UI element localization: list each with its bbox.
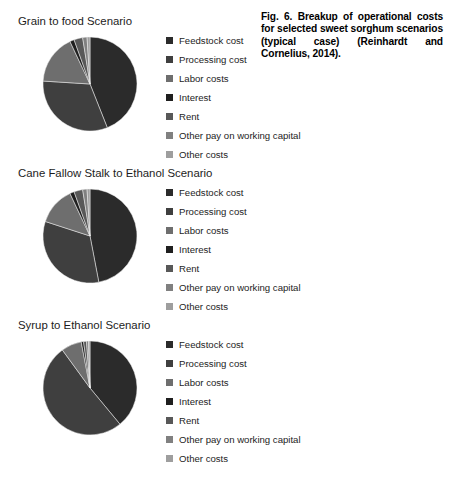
- legend-item[interactable]: Interest: [166, 392, 301, 411]
- figure-root: Fig. 6. Breakup of operational costs for…: [0, 0, 452, 482]
- legend-label: Other costs: [179, 301, 228, 312]
- legend-item[interactable]: Other pay on working capital: [166, 430, 301, 449]
- legend-swatch-icon: [166, 37, 173, 44]
- legend-item[interactable]: Other costs: [166, 449, 301, 468]
- legend-item[interactable]: Other pay on working capital: [166, 278, 301, 297]
- legend-label: Other costs: [179, 149, 228, 160]
- pie-slice[interactable]: [90, 189, 137, 282]
- legend-swatch-icon: [166, 360, 173, 367]
- legend-swatch-icon: [166, 132, 173, 139]
- legend-item[interactable]: Labor costs: [166, 373, 301, 392]
- legend-label: Processing cost: [179, 206, 247, 217]
- legend-swatch-icon: [166, 398, 173, 405]
- legend-item[interactable]: Labor costs: [166, 69, 301, 88]
- legend-swatch-icon: [166, 246, 173, 253]
- legend-item[interactable]: Interest: [166, 88, 301, 107]
- legend-item[interactable]: Interest: [166, 240, 301, 259]
- legend-swatch-icon: [166, 265, 173, 272]
- legend-swatch-icon: [166, 189, 173, 196]
- chart-title-1: Grain to food Scenario: [18, 14, 132, 28]
- legend-item[interactable]: Processing cost: [166, 354, 301, 373]
- pie-chart-1: [40, 34, 140, 134]
- legend-swatch-icon: [166, 379, 173, 386]
- legend-swatch-icon: [166, 56, 173, 63]
- legend-swatch-icon: [166, 284, 173, 291]
- legend-swatch-icon: [166, 417, 173, 424]
- legend-label: Rent: [179, 111, 199, 122]
- legend-item[interactable]: Other costs: [166, 145, 301, 164]
- legend-swatch-icon: [166, 113, 173, 120]
- pie-chart-3: [40, 338, 140, 438]
- legend-swatch-icon: [166, 151, 173, 158]
- legend-label: Interest: [179, 396, 211, 407]
- legend-label: Other pay on working capital: [179, 434, 301, 445]
- legend-item[interactable]: Feedstock cost: [166, 335, 301, 354]
- chart-title-2: Cane Fallow Stalk to Ethanol Scenario: [18, 166, 212, 180]
- legend-label: Interest: [179, 244, 211, 255]
- legend-item[interactable]: Rent: [166, 411, 301, 430]
- legend-label: Feedstock cost: [179, 187, 244, 198]
- legend-label: Feedstock cost: [179, 35, 244, 46]
- legend-item[interactable]: Other pay on working capital: [166, 126, 301, 145]
- pie-chart-2: [40, 186, 140, 286]
- legend-swatch-icon: [166, 341, 173, 348]
- legend-item[interactable]: Processing cost: [166, 202, 301, 221]
- pie-svg-1: [40, 34, 140, 134]
- legend-swatch-icon: [166, 208, 173, 215]
- pie-svg-3: [40, 338, 140, 438]
- legend-label: Other costs: [179, 453, 228, 464]
- legend-label: Labor costs: [179, 73, 229, 84]
- legend-swatch-icon: [166, 436, 173, 443]
- legend-item[interactable]: Other costs: [166, 297, 301, 316]
- legend-item[interactable]: Rent: [166, 107, 301, 126]
- legend-swatch-icon: [166, 227, 173, 234]
- legend-label: Labor costs: [179, 225, 229, 236]
- legend-item[interactable]: Feedstock cost: [166, 31, 301, 50]
- legend-1: Feedstock costProcessing costLabor costs…: [166, 31, 301, 164]
- legend-label: Rent: [179, 415, 199, 426]
- legend-label: Feedstock cost: [179, 339, 244, 350]
- legend-swatch-icon: [166, 455, 173, 462]
- legend-swatch-icon: [166, 303, 173, 310]
- chart-title-3: Syrup to Ethanol Scenario: [18, 318, 150, 332]
- legend-label: Other pay on working capital: [179, 282, 301, 293]
- legend-label: Labor costs: [179, 377, 229, 388]
- legend-item[interactable]: Feedstock cost: [166, 183, 301, 202]
- legend-swatch-icon: [166, 75, 173, 82]
- legend-item[interactable]: Labor costs: [166, 221, 301, 240]
- legend-item[interactable]: Rent: [166, 259, 301, 278]
- legend-label: Processing cost: [179, 54, 247, 65]
- legend-label: Interest: [179, 92, 211, 103]
- legend-item[interactable]: Processing cost: [166, 50, 301, 69]
- legend-2: Feedstock costProcessing costLabor costs…: [166, 183, 301, 316]
- legend-3: Feedstock costProcessing costLabor costs…: [166, 335, 301, 468]
- legend-label: Other pay on working capital: [179, 130, 301, 141]
- legend-label: Rent: [179, 263, 199, 274]
- pie-svg-2: [40, 186, 140, 286]
- legend-swatch-icon: [166, 94, 173, 101]
- legend-label: Processing cost: [179, 358, 247, 369]
